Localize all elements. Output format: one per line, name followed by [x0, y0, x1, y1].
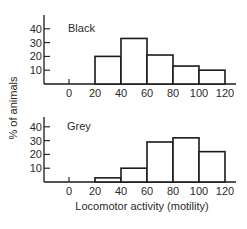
y-tick-label: 30 — [30, 37, 42, 49]
histogram-bar — [95, 56, 121, 84]
histogram-bar — [147, 55, 173, 84]
x-tick-label: 60 — [141, 87, 153, 99]
histogram-bar — [121, 168, 147, 182]
x-axis-label: Locomotor activity (motility) — [75, 200, 208, 212]
x-tick-label: 100 — [190, 185, 208, 197]
x-tick-label: 20 — [89, 87, 101, 99]
panel-title: Grey — [67, 120, 91, 132]
histogram-bar — [199, 70, 225, 84]
histogram-bar — [121, 38, 147, 84]
y-tick-label: 10 — [30, 64, 42, 76]
histogram-figure: % of animals 10203040020406080100120Blac… — [0, 0, 247, 229]
y-axis-label: % of animals — [7, 76, 19, 139]
y-tick-label: 30 — [30, 135, 42, 147]
panel-grey: 10203040020406080100120Grey — [30, 117, 236, 197]
x-tick-label: 80 — [167, 87, 179, 99]
histogram-bar — [173, 66, 199, 84]
y-tick-label: 40 — [30, 23, 42, 35]
x-tick-label: 120 — [216, 185, 234, 197]
x-tick-label: 0 — [66, 185, 72, 197]
x-tick-label: 80 — [167, 185, 179, 197]
histogram-bar — [173, 138, 199, 182]
x-tick-label: 20 — [89, 185, 101, 197]
panel-title: Black — [68, 22, 95, 34]
x-tick-label: 100 — [190, 87, 208, 99]
x-tick-label: 120 — [216, 87, 234, 99]
histogram-bar — [95, 178, 121, 182]
panel-black: 10203040020406080100120Black — [30, 15, 236, 99]
histogram-bar — [147, 142, 173, 182]
x-tick-label: 40 — [115, 185, 127, 197]
y-tick-label: 20 — [30, 148, 42, 160]
y-tick-label: 10 — [30, 162, 42, 174]
x-tick-label: 60 — [141, 185, 153, 197]
x-tick-label: 0 — [66, 87, 72, 99]
x-tick-label: 40 — [115, 87, 127, 99]
histogram-bar — [199, 152, 225, 182]
y-tick-label: 20 — [30, 50, 42, 62]
y-tick-label: 40 — [30, 121, 42, 133]
